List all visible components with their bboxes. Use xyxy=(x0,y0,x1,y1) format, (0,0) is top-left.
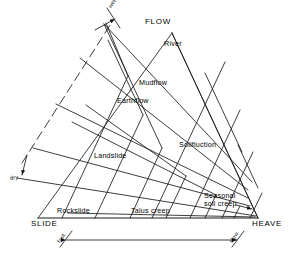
grid-family-a xyxy=(62,23,240,218)
category-label-river: River xyxy=(164,40,182,47)
wet-arrow xyxy=(95,19,115,30)
dry-arrow xyxy=(22,155,27,175)
vertex-label-heave: HEAVE xyxy=(252,220,282,228)
category-label-earthflow: Earthflow xyxy=(117,97,149,104)
axis-label-dry: dry xyxy=(10,175,19,182)
category-label-solifluction: Solifluction xyxy=(179,141,216,148)
category-label-talus-creep: Talus creep xyxy=(131,207,170,214)
grid-family-c xyxy=(17,24,256,217)
ternary-diagram: FLOW SLIDE HEAVE River Mudflow Earthflow… xyxy=(0,0,296,257)
category-label-mudflow: Mudflow xyxy=(139,79,167,86)
category-label-landslide: Landslide xyxy=(94,152,127,159)
vertex-label-slide: SLIDE xyxy=(31,220,58,228)
wet-axis-dashed-line xyxy=(22,22,112,163)
rate-axis xyxy=(60,231,244,247)
category-label-rockslide: Rockslide xyxy=(57,207,90,214)
category-label-seasonal-soil-creep: Seasonal soil creep xyxy=(204,192,246,209)
vertex-label-flow: FLOW xyxy=(145,18,171,26)
creep-line-2: soil creep xyxy=(204,199,237,208)
